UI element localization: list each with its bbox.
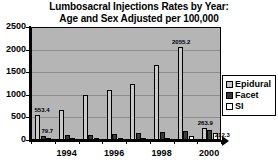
legend-swatch-epidural-icon [226, 81, 233, 88]
x-axis-tick [150, 140, 151, 144]
y-axis-tick-label: 1000 [0, 90, 26, 99]
chart-container: Lumbosacral Injections Rates by Year: Ag… [0, 0, 278, 168]
y-axis-tick-label: 2500 [0, 22, 26, 31]
bar-facet-1999 [183, 131, 188, 140]
data-label: 553.4 [34, 107, 49, 113]
data-label: 2055.2 [172, 39, 190, 45]
x-axis-tick-label: 2000 [192, 148, 226, 158]
x-axis-tick [221, 140, 222, 144]
x-axis-tick-label: 1994 [50, 148, 84, 158]
grid-line [32, 72, 220, 73]
data-label: 263.9 [198, 120, 213, 126]
x-axis-tick [174, 140, 175, 144]
x-axis-tick [102, 140, 103, 144]
x-axis-arrow-icon [222, 136, 229, 146]
bar-epidural-1993 [35, 115, 40, 140]
x-axis-tick [31, 140, 32, 144]
legend-label-epidural: Epidural [235, 80, 271, 89]
x-axis-tick [79, 140, 80, 144]
legend-item-facet: Facet [226, 90, 273, 101]
grid-line [32, 95, 220, 96]
bar-epidural-1995 [83, 95, 88, 140]
legend-swatch-si-icon [226, 103, 233, 110]
y-axis-tick [26, 72, 31, 73]
bar-epidural-1994 [59, 110, 64, 140]
bar-facet-1997 [136, 133, 141, 140]
grid-line [32, 50, 220, 51]
legend-label-facet: Facet [235, 91, 259, 100]
y-axis-tick [26, 27, 31, 28]
legend-item-si: SI [226, 101, 273, 112]
bar-epidural-1997 [130, 84, 135, 140]
x-axis-tick-label: 1998 [145, 148, 179, 158]
bar-facet-1998 [160, 132, 165, 140]
chart-title-line1: Lumbosacral Injections Rates by Year: [49, 1, 229, 12]
x-axis-tick [55, 140, 56, 144]
bar-epidural-2000 [202, 128, 207, 140]
chart-legend: Epidural Facet SI [222, 75, 276, 116]
x-axis-tick [197, 140, 198, 144]
bar-facet-2000 [207, 130, 212, 140]
bar-epidural-1998 [154, 65, 159, 140]
y-axis-tick-label: 500 [0, 112, 26, 121]
data-label: 79.7 [41, 128, 53, 134]
legend-item-epidural: Epidural [226, 79, 273, 90]
y-axis-tick [26, 117, 31, 118]
x-axis-tick-label: 1996 [97, 148, 131, 158]
chart-title: Lumbosacral Injections Rates by Year: Ag… [0, 1, 278, 25]
y-axis-tick-label: 1500 [0, 67, 26, 76]
chart-title-line2: Age and Sex Adjusted per 100,000 [0, 13, 278, 25]
grid-line [32, 27, 220, 28]
x-axis-tick [126, 140, 127, 144]
y-axis-tick-label: 0 [0, 135, 26, 144]
legend-label-si: SI [235, 102, 244, 111]
legend-swatch-facet-icon [226, 92, 233, 99]
bar-epidural-1996 [107, 90, 112, 140]
bar-epidural-1999 [178, 47, 183, 140]
y-axis-tick [26, 50, 31, 51]
y-axis-tick-label: 2000 [0, 45, 26, 54]
y-axis-tick [26, 95, 31, 96]
